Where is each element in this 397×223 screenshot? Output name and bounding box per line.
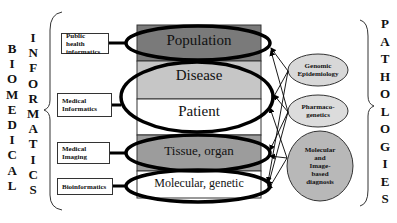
label-pharmacogenetics: Pharmaco- genetics (288, 103, 348, 119)
box-medical-imaging: Medical Imaging (57, 142, 110, 164)
box-bioinformatics: Bioinformatics (57, 178, 113, 195)
title-informatics: I N F O R M A T I C S (27, 30, 39, 197)
box-public-health-informatics: Public health informatics (61, 33, 109, 54)
level-patient: Patient (135, 103, 263, 120)
box-medical-informatics: Medical Informatics (57, 93, 112, 117)
label-genomic-epidemiology: Genomic Epidemiology (288, 62, 348, 78)
biomedical-informatics-diagram: B I O M E D I C A L I N F O R M A T I C … (0, 0, 397, 223)
arrows (268, 48, 288, 190)
level-tissue-organ: Tissue, organ (135, 143, 263, 159)
level-disease: Disease (135, 67, 263, 84)
label-molecular-image-diagnosis: Molecular and Image- based diagnosis (290, 146, 350, 186)
title-biomedical: B I O M E D I C A L (6, 41, 18, 193)
right-brace (360, 20, 374, 206)
title-pathologies: P A T H O L O G I E S (380, 15, 390, 208)
level-population: Population (135, 32, 263, 49)
level-molecular-genetic: Molecular, genetic (135, 176, 263, 191)
